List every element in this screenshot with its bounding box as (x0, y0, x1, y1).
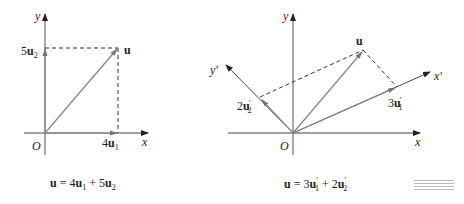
left-y-label: y (34, 9, 41, 23)
left-x-label: x (141, 135, 148, 149)
right-u-label: u (356, 34, 363, 48)
right-equation: u = 3u′1 + 2u′2 (284, 176, 347, 193)
right-y-label: y (282, 9, 289, 23)
left-equation: u = 4u1 + 5u2 (50, 176, 116, 192)
right-u2p-component (262, 100, 293, 133)
left-figure: y x O u 5u2 4u1 (21, 9, 148, 155)
right-2u2p-label: 2u′2 (237, 99, 251, 115)
right-dashed-top (260, 50, 363, 97)
diagram-canvas: y x O u 5u2 4u1 y x x′ y′ O u 2u′2 3u′1 (0, 0, 464, 204)
right-figure: y x x′ y′ O u 2u′2 3u′1 (209, 9, 442, 155)
right-origin-label: O (280, 139, 289, 153)
right-u1p-component (293, 88, 395, 133)
left-u-label: u (124, 43, 131, 57)
right-vector-u (293, 52, 362, 133)
left-origin-label: O (32, 139, 41, 153)
left-4u1-label: 4u1 (102, 136, 119, 152)
right-x-label: x (414, 135, 421, 149)
right-dashed-right (363, 50, 397, 87)
menu-lines-icon (414, 180, 454, 192)
left-5u2-label: 5u2 (21, 44, 38, 60)
right-3u1p-label: 3u′1 (388, 96, 402, 112)
right-xprime-label: x′ (433, 69, 442, 83)
right-yprime-label: y′ (209, 63, 218, 77)
left-vector-u (45, 49, 117, 133)
